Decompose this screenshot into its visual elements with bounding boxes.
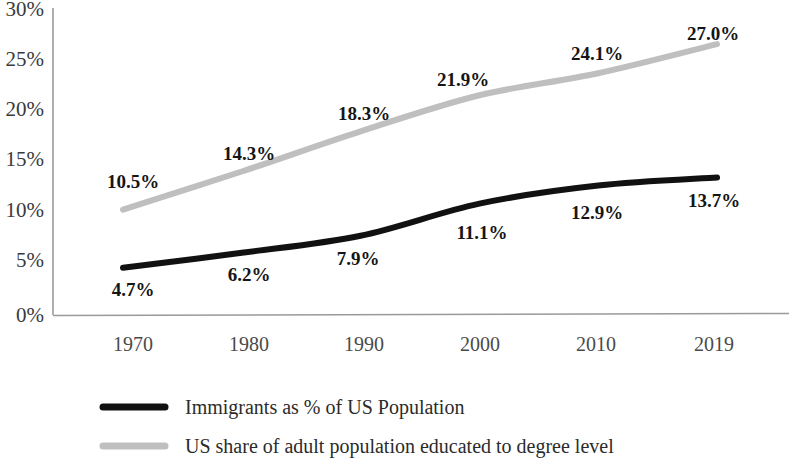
line-chart: 30% 25% 20% 15% 10% 5% 0% 1970 1980 1990… [0, 0, 792, 464]
data-label-degree-1970: 10.5% [107, 171, 159, 192]
x-tick-label-1980: 1980 [229, 333, 269, 355]
data-label-degree-1980: 14.3% [223, 143, 275, 164]
y-tick-label-15: 15% [6, 147, 45, 171]
x-tick-label-2000: 2000 [460, 333, 500, 355]
y-tick-label-25: 25% [6, 47, 45, 71]
legend-label-degree: US share of adult population educated to… [185, 435, 614, 458]
y-tick-label-0: 0% [16, 303, 44, 327]
data-label-immigrants-1990: 7.9% [337, 248, 380, 269]
data-label-degree-2019: 27.0% [687, 23, 739, 44]
data-label-immigrants-2019: 13.7% [688, 190, 740, 211]
x-axis-line [53, 314, 789, 316]
x-tick-label-2019: 2019 [694, 333, 734, 355]
x-tick-label-1970: 1970 [113, 333, 153, 355]
chart-canvas: 30% 25% 20% 15% 10% 5% 0% 1970 1980 1990… [0, 0, 792, 464]
data-label-degree-2010: 24.1% [571, 43, 623, 64]
data-label-degree-1990: 18.3% [338, 103, 390, 124]
data-label-immigrants-2010: 12.9% [571, 202, 623, 223]
data-label-degree-2000: 21.9% [437, 69, 489, 90]
legend: Immigrants as % of US Population US shar… [103, 396, 614, 458]
y-tick-label-20: 20% [6, 97, 45, 121]
x-tick-label-1990: 1990 [344, 333, 384, 355]
y-tick-label-30: 30% [6, 0, 45, 21]
series-line-immigrants [123, 178, 717, 268]
y-tick-label-5: 5% [16, 248, 44, 272]
data-label-immigrants-2000: 11.1% [456, 222, 507, 243]
y-tick-label-10: 10% [6, 198, 45, 222]
data-label-immigrants-1970: 4.7% [112, 279, 155, 300]
data-label-immigrants-1980: 6.2% [228, 264, 271, 285]
x-tick-label-2010: 2010 [576, 333, 616, 355]
legend-item-immigrants[interactable]: Immigrants as % of US Population [103, 396, 464, 419]
legend-label-immigrants: Immigrants as % of US Population [185, 396, 464, 419]
legend-item-degree[interactable]: US share of adult population educated to… [103, 435, 614, 458]
